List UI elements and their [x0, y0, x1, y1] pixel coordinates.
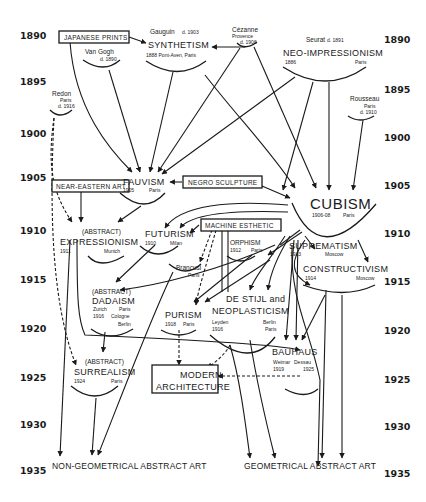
- movement-suprematism: SUPREMATISM 1913 Moscow: [289, 241, 358, 257]
- year-label: 1935: [384, 468, 410, 479]
- movement-fauvism: FAUVISM 1905 Paris: [123, 177, 165, 193]
- year-label: 1935: [20, 465, 46, 476]
- year-label: 1920: [20, 323, 47, 334]
- artist-seurat: Seurat d. 1891: [306, 36, 344, 43]
- movement-constructivism: CONSTRUCTIVISM 1914 Moscow: [303, 264, 388, 281]
- svg-text:Moscow: Moscow: [325, 251, 344, 257]
- svg-text:NEGRO SCULPTURE: NEGRO SCULPTURE: [188, 179, 258, 186]
- svg-text:1910: 1910: [145, 240, 156, 246]
- year-axis-right: 1890 1895 1900 1905 1910 1915 1920 1925 …: [384, 34, 411, 479]
- svg-text:1912: 1912: [230, 247, 241, 253]
- svg-text:1918: 1918: [165, 321, 176, 327]
- svg-text:Paris: Paris: [343, 212, 355, 218]
- year-label: 1905: [384, 180, 410, 191]
- movement-orphism: ORPHISM 1912 Paris: [230, 239, 263, 253]
- svg-text:Brancusi: Brancusi: [176, 264, 201, 271]
- svg-text:Moscow: Moscow: [356, 275, 375, 281]
- svg-text:SURREALISM: SURREALISM: [74, 367, 136, 377]
- svg-text:MACHINE ESTHETIC: MACHINE ESTHETIC: [205, 222, 274, 229]
- svg-text:Paris: Paris: [355, 59, 367, 65]
- svg-text:Zurich: Zurich: [93, 306, 107, 312]
- svg-text:Weimar: Weimar: [273, 359, 290, 365]
- svg-text:Leyden: Leyden: [212, 319, 229, 325]
- svg-text:d. 1916: d. 1916: [58, 103, 75, 109]
- year-label: 1930: [20, 419, 47, 430]
- svg-text:Paris: Paris: [265, 326, 277, 332]
- svg-text:Paris: Paris: [111, 378, 123, 384]
- svg-text:ORPHISM: ORPHISM: [230, 239, 260, 246]
- svg-text:Gauguin: Gauguin: [150, 28, 175, 36]
- svg-text:SYNTHETISM: SYNTHETISM: [148, 40, 209, 50]
- year-label: 1890: [20, 30, 47, 41]
- svg-text:Paris: Paris: [119, 306, 131, 312]
- movement-purism: PURISM 1918 Paris: [165, 310, 202, 327]
- svg-text:GEOMETRICAL ABSTRACT ART: GEOMETRICAL ABSTRACT ART: [244, 461, 376, 471]
- svg-text:Paris: Paris: [251, 247, 263, 253]
- movement-futurism: FUTURISM 1910 Milan: [145, 229, 194, 246]
- svg-text:NEOPLASTICISM: NEOPLASTICISM: [212, 306, 289, 316]
- year-label: 1900: [384, 132, 411, 143]
- svg-text:1919: 1919: [273, 366, 284, 372]
- artist-van-gogh: Van Gogh d. 1890: [85, 48, 117, 62]
- svg-text:DADAISM: DADAISM: [92, 296, 135, 306]
- svg-text:1913: 1913: [290, 251, 301, 257]
- svg-text:PURISM: PURISM: [165, 310, 202, 320]
- movement-neo-impressionism: NEO-IMPRESSIONISM 1886 Paris: [283, 48, 383, 65]
- year-label: 1890: [384, 34, 411, 45]
- movement-synthetism: SYNTHETISM 1888 Pont-Aven, Paris: [146, 40, 209, 58]
- year-label: 1915: [384, 276, 410, 287]
- svg-text:FUTURISM: FUTURISM: [145, 229, 194, 239]
- svg-text:d. 1903: d. 1903: [182, 29, 199, 35]
- year-label: 1920: [384, 325, 411, 336]
- artist-gauguin: Gauguin d. 1903: [150, 28, 199, 36]
- svg-text:Seurat: Seurat: [306, 36, 325, 43]
- year-label: 1930: [384, 421, 411, 432]
- svg-text:d. 1910: d. 1910: [360, 109, 377, 115]
- svg-text:Berlin: Berlin: [263, 319, 276, 325]
- year-label: 1905: [20, 172, 46, 183]
- svg-text:MODERN: MODERN: [180, 370, 222, 380]
- year-label: 1925: [20, 372, 46, 383]
- svg-text:1916: 1916: [93, 313, 104, 319]
- svg-text:FAUVISM: FAUVISM: [123, 177, 165, 187]
- year-label: 1895: [384, 84, 410, 95]
- svg-text:EXPRESSIONISM: EXPRESSIONISM: [60, 237, 138, 247]
- svg-text:Munich: Munich: [104, 248, 120, 254]
- svg-text:NON-GEOMETRICAL ABSTRACT ART: NON-GEOMETRICAL ABSTRACT ART: [52, 461, 207, 471]
- year-label: 1895: [20, 76, 46, 87]
- machine-esthetic-box: MACHINE ESTHETIC: [201, 219, 281, 231]
- svg-text:1916: 1916: [212, 326, 223, 332]
- svg-text:Redon: Redon: [52, 90, 72, 97]
- svg-text:d. 1906: d. 1906: [240, 39, 257, 45]
- year-label: 1925: [384, 374, 410, 385]
- svg-text:DE STIJL and: DE STIJL and: [226, 294, 285, 304]
- svg-text:CUBISM: CUBISM: [310, 195, 371, 212]
- outcome-geometrical: GEOMETRICAL ABSTRACT ART: [244, 461, 376, 471]
- svg-text:Milan: Milan: [170, 240, 182, 246]
- modern-architecture-box: MODERN ARCHITECTURE: [152, 365, 230, 393]
- movement-de-stijl: DE STIJL and NEOPLASTICISM Leyden 1916 B…: [212, 294, 289, 332]
- svg-text:BAUHAUS: BAUHAUS: [272, 347, 318, 357]
- svg-text:Berlin: Berlin: [118, 321, 131, 327]
- svg-text:NEO-IMPRESSIONISM: NEO-IMPRESSIONISM: [283, 48, 383, 58]
- negro-sculpture-box: NEGRO SCULPTURE: [183, 176, 262, 188]
- svg-text:ARCHITECTURE: ARCHITECTURE: [156, 382, 230, 392]
- year-label: 1900: [20, 128, 47, 139]
- near-eastern-art-box: NEAR-EASTERN ART: [52, 180, 129, 192]
- svg-text:Cologne: Cologne: [111, 313, 130, 319]
- year-label: 1910: [20, 225, 47, 236]
- svg-text:CONSTRUCTIVISM: CONSTRUCTIVISM: [303, 264, 388, 274]
- artist-redon: Redon Paris d. 1916: [52, 90, 75, 109]
- svg-text:1906-08: 1906-08: [312, 212, 331, 218]
- svg-text:Paris: Paris: [149, 187, 161, 193]
- artist-rousseau: Rousseau Paris d. 1910: [350, 95, 380, 115]
- svg-text:d. 1891: d. 1891: [327, 37, 344, 43]
- svg-text:(ABSTRACT): (ABSTRACT): [82, 228, 121, 236]
- connections: [51, 37, 368, 466]
- svg-text:Dessau: Dessau: [294, 359, 311, 365]
- svg-text:NEAR-EASTERN ART: NEAR-EASTERN ART: [56, 183, 126, 190]
- movement-expressionism: (ABSTRACT) EXPRESSIONISM 1911 Munich: [60, 228, 138, 254]
- movement-dadaism: (ABSTRACT) DADAISM Zurich Paris 1916 Col…: [92, 288, 135, 327]
- year-axis-left: 1890 1895 1900 1905 1910 1915 1920 1925 …: [20, 30, 47, 476]
- movement-bauhaus: BAUHAUS Weimar Dessau 1919 1925: [272, 347, 318, 372]
